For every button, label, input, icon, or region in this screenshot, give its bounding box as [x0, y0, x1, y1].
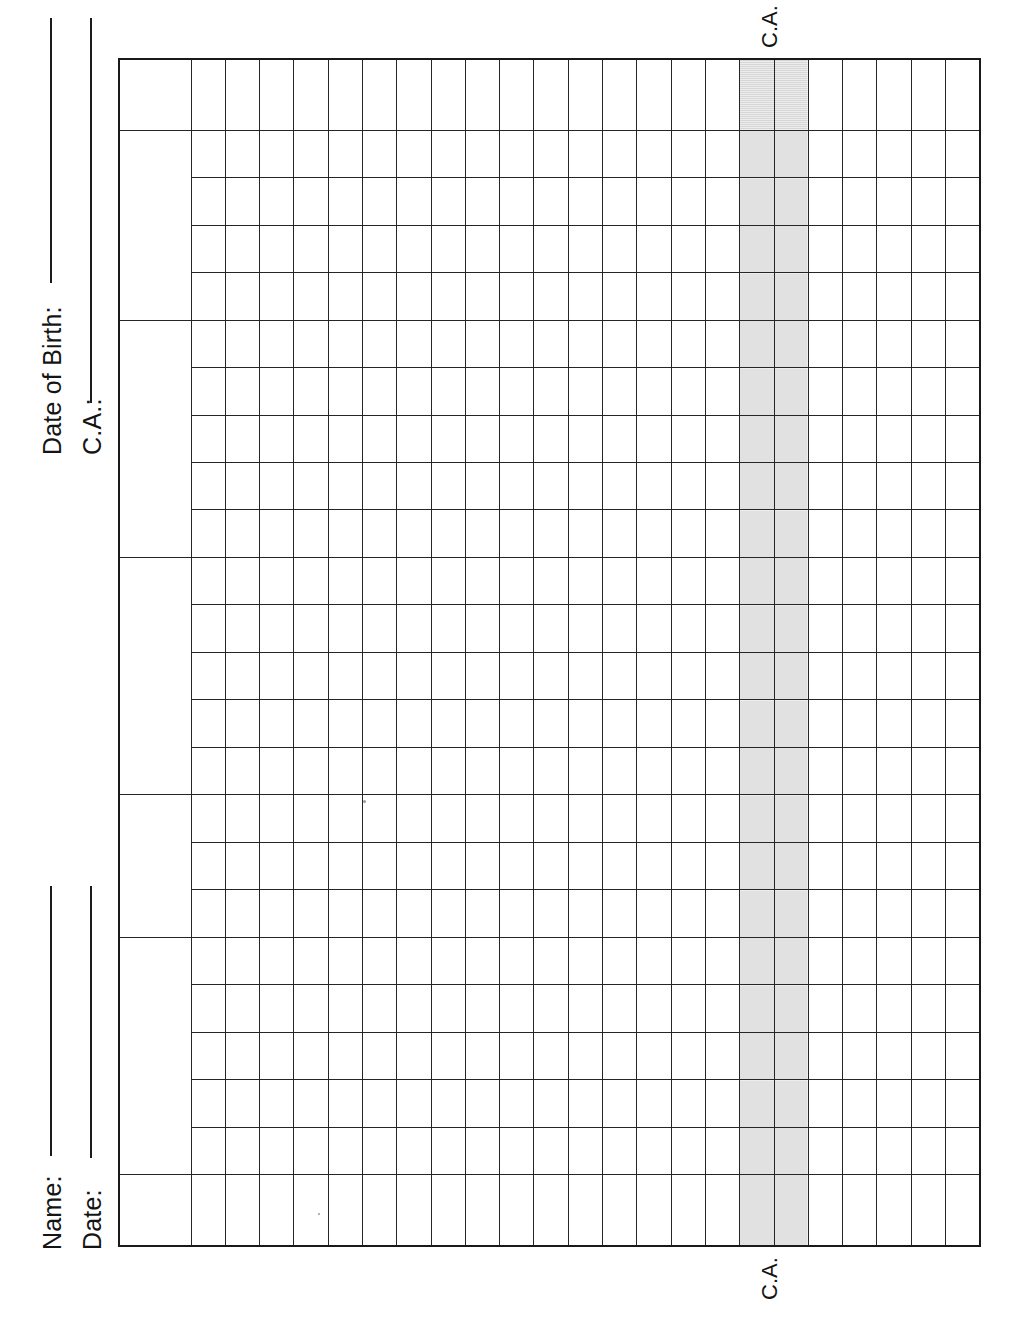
ca-shaded-cell[interactable]: [774, 59, 808, 130]
grid-cell[interactable]: [843, 510, 877, 557]
grid-cell[interactable]: [843, 320, 877, 367]
grid-cell[interactable]: [500, 130, 534, 177]
grid-cell[interactable]: [500, 1175, 534, 1246]
grid-cell[interactable]: [260, 463, 294, 510]
grid-cell[interactable]: [431, 320, 465, 367]
grid-cell[interactable]: [637, 842, 671, 889]
grid-cell[interactable]: [568, 273, 602, 320]
grid-cell[interactable]: [465, 890, 499, 937]
date-input-rule[interactable]: [90, 886, 92, 1158]
grid-cell[interactable]: [328, 842, 362, 889]
grid-cell[interactable]: [328, 463, 362, 510]
grid-cell[interactable]: [328, 59, 362, 130]
grid-cell[interactable]: [465, 320, 499, 367]
grid-cell[interactable]: [946, 320, 980, 367]
grid-cell[interactable]: [431, 605, 465, 652]
grid-cell[interactable]: [843, 463, 877, 510]
grid-cell[interactable]: [191, 605, 225, 652]
grid-cell[interactable]: [671, 937, 705, 984]
name-input-rule[interactable]: [50, 886, 52, 1156]
grid-cell[interactable]: [808, 178, 842, 225]
grid-cell[interactable]: [877, 557, 911, 604]
grid-cell[interactable]: [911, 368, 945, 415]
ca-shaded-cell[interactable]: [740, 557, 774, 604]
grid-cell[interactable]: [294, 1175, 328, 1246]
grid-cell[interactable]: [637, 178, 671, 225]
grid-cell[interactable]: [603, 225, 637, 272]
grid-cell[interactable]: [671, 273, 705, 320]
grid-cell[interactable]: [397, 652, 431, 699]
grid-cell[interactable]: [671, 795, 705, 842]
grid-cell[interactable]: [568, 1127, 602, 1174]
grid-cell[interactable]: [225, 842, 259, 889]
grid-cell[interactable]: [465, 985, 499, 1032]
grid-cell[interactable]: [705, 937, 739, 984]
grid-cell[interactable]: [568, 178, 602, 225]
ca-shaded-cell[interactable]: [774, 747, 808, 794]
ca-shaded-cell[interactable]: [774, 1175, 808, 1246]
grid-cell[interactable]: [603, 795, 637, 842]
grid-cell[interactable]: [877, 225, 911, 272]
grid-cell[interactable]: [808, 225, 842, 272]
grid-cell[interactable]: [603, 178, 637, 225]
grid-cell[interactable]: [637, 368, 671, 415]
grid-cell[interactable]: [534, 225, 568, 272]
grid-cell[interactable]: [431, 652, 465, 699]
block-label-cell-6[interactable]: [119, 937, 191, 1174]
grid-cell[interactable]: [397, 415, 431, 462]
grid-cell[interactable]: [500, 842, 534, 889]
grid-cell[interactable]: [191, 130, 225, 177]
grid-cell[interactable]: [534, 273, 568, 320]
grid-cell[interactable]: [637, 1032, 671, 1079]
grid-cell[interactable]: [225, 605, 259, 652]
grid-cell[interactable]: [705, 985, 739, 1032]
grid-cell[interactable]: [260, 59, 294, 130]
grid-cell[interactable]: [808, 557, 842, 604]
grid-cell[interactable]: [637, 1127, 671, 1174]
grid-cell[interactable]: [225, 937, 259, 984]
grid-cell[interactable]: [808, 273, 842, 320]
grid-cell[interactable]: [603, 605, 637, 652]
grid-cell[interactable]: [191, 747, 225, 794]
grid-cell[interactable]: [225, 368, 259, 415]
grid-cell[interactable]: [191, 557, 225, 604]
grid-cell[interactable]: [362, 937, 396, 984]
grid-cell[interactable]: [603, 130, 637, 177]
grid-cell[interactable]: [671, 985, 705, 1032]
grid-cell[interactable]: [191, 1032, 225, 1079]
grid-cell[interactable]: [843, 1127, 877, 1174]
grid-cell[interactable]: [705, 463, 739, 510]
grid-cell[interactable]: [294, 842, 328, 889]
grid-cell[interactable]: [705, 1175, 739, 1246]
grid-cell[interactable]: [911, 985, 945, 1032]
grid-cell[interactable]: [397, 1127, 431, 1174]
grid-cell[interactable]: [603, 273, 637, 320]
grid-cell[interactable]: [328, 605, 362, 652]
ca-shaded-cell[interactable]: [740, 463, 774, 510]
grid-cell[interactable]: [534, 1127, 568, 1174]
grid-cell[interactable]: [637, 652, 671, 699]
grid-cell[interactable]: [705, 1080, 739, 1127]
grid-cell[interactable]: [568, 368, 602, 415]
grid-cell[interactable]: [946, 700, 980, 747]
ca-shaded-cell[interactable]: [740, 320, 774, 367]
grid-cell[interactable]: [808, 463, 842, 510]
ca-shaded-cell[interactable]: [740, 795, 774, 842]
grid-cell[interactable]: [191, 225, 225, 272]
ca-shaded-cell[interactable]: [740, 842, 774, 889]
grid-cell[interactable]: [946, 1175, 980, 1246]
grid-cell[interactable]: [397, 273, 431, 320]
grid-cell[interactable]: [843, 1175, 877, 1246]
grid-cell[interactable]: [465, 415, 499, 462]
grid-cell[interactable]: [877, 1175, 911, 1246]
grid-cell[interactable]: [191, 320, 225, 367]
grid-cell[interactable]: [362, 890, 396, 937]
grid-cell[interactable]: [808, 985, 842, 1032]
ca-shaded-cell[interactable]: [774, 320, 808, 367]
grid-cell[interactable]: [946, 652, 980, 699]
grid-cell[interactable]: [397, 320, 431, 367]
grid-cell[interactable]: [500, 178, 534, 225]
grid-cell[interactable]: [397, 368, 431, 415]
grid-cell[interactable]: [705, 557, 739, 604]
grid-cell[interactable]: [362, 1080, 396, 1127]
